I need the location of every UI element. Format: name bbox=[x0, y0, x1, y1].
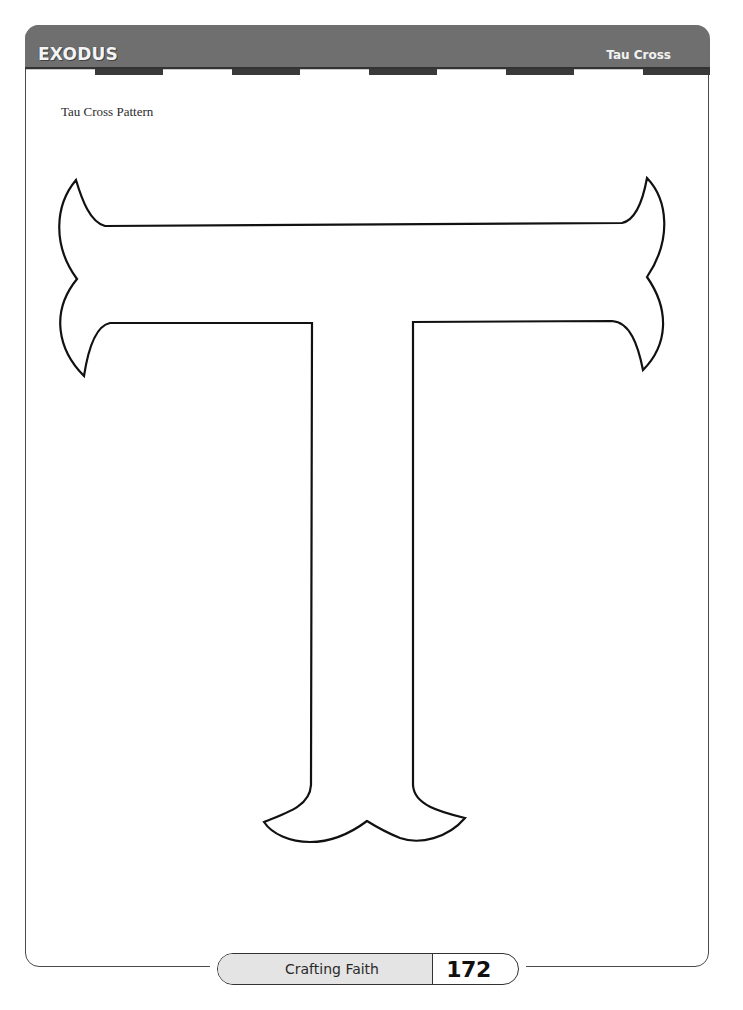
tau-cross-outline-icon bbox=[0, 0, 743, 1010]
page-number: 172 bbox=[433, 954, 518, 984]
footer-book-title: Crafting Faith bbox=[218, 954, 433, 984]
footer-pill: Crafting Faith 172 bbox=[217, 953, 519, 985]
